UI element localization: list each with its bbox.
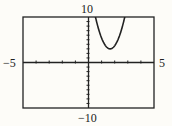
plot-area	[0, 0, 172, 126]
